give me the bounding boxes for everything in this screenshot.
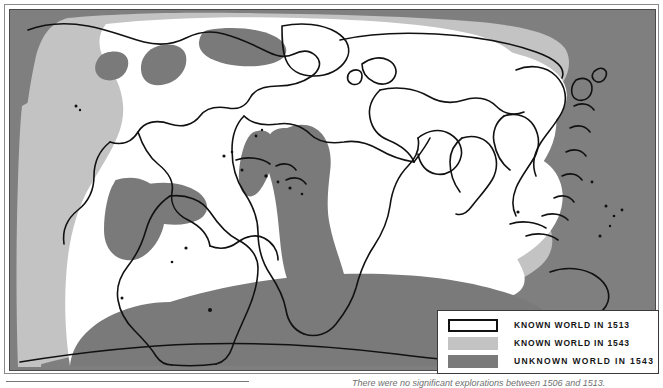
legend-item-known-1513: KNOWN WORLD IN 1513 — [448, 318, 630, 333]
bottom-divider — [6, 381, 249, 382]
legend-label-known-1513: KNOWN WORLD IN 1513 — [514, 319, 630, 332]
map-figure: KNOWN WORLD IN 1513 KNOWN WORLD IN 1543 … — [4, 4, 659, 374]
legend-swatch-unknown-1543 — [448, 355, 498, 368]
figure-caption: There were no significant explorations b… — [352, 378, 662, 388]
legend-item-unknown-1543: UNKNOWN WORLD IN 1543 — [448, 354, 654, 369]
legend-label-unknown-1543: UNKNOWN WORLD IN 1543 — [514, 355, 654, 368]
legend-swatch-known-1543 — [448, 337, 498, 350]
map-legend: KNOWN WORLD IN 1513 KNOWN WORLD IN 1543 … — [437, 310, 659, 374]
legend-label-known-1543: KNOWN WORLD IN 1543 — [514, 337, 630, 350]
page-root: KNOWN WORLD IN 1513 KNOWN WORLD IN 1543 … — [0, 0, 663, 388]
legend-swatch-known-1513 — [448, 319, 498, 332]
legend-item-known-1543: KNOWN WORLD IN 1543 — [448, 336, 630, 351]
